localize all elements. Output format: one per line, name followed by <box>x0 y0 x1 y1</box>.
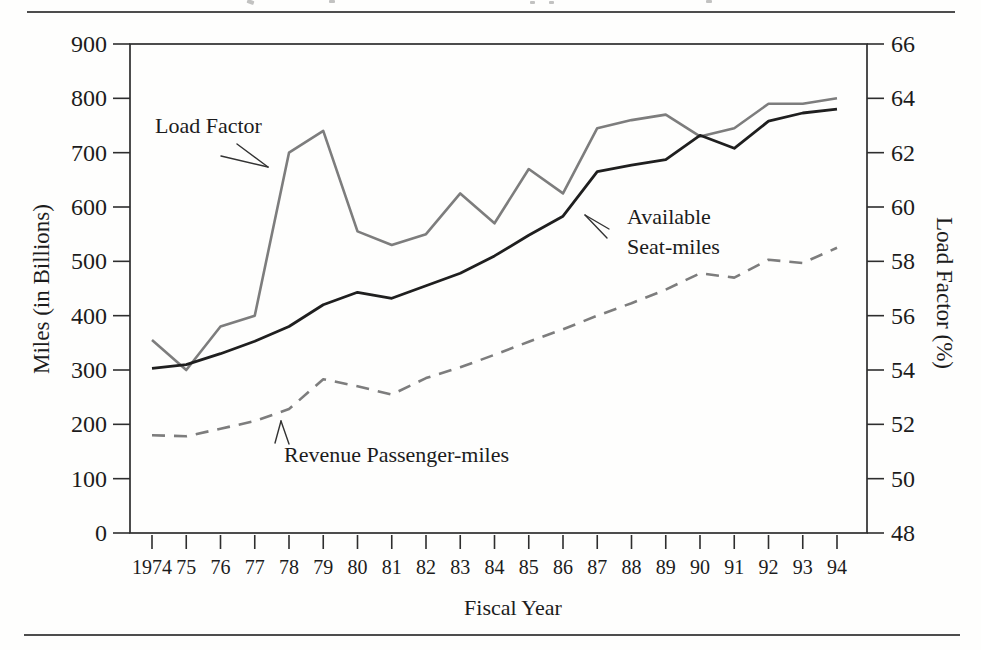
available-seat-miles-line <box>152 109 837 368</box>
x-tick-label: 88 <box>622 556 642 578</box>
y-left-tick-label: 700 <box>71 140 107 166</box>
y-left-tick-label: 100 <box>71 466 107 492</box>
y-right-tick-label: 54 <box>891 357 915 383</box>
y-right-tick-label: 50 <box>891 466 915 492</box>
revenue-passenger-miles-annotation: Revenue Passenger-miles <box>284 440 509 470</box>
y-right-tick-label: 48 <box>891 520 915 546</box>
load-factor-annotation: Load Factor <box>155 111 262 141</box>
x-tick-label: 77 <box>245 556 265 578</box>
y-axis-left-title: Miles (in Billions) <box>29 204 55 374</box>
x-tick-label: 75 <box>176 556 196 578</box>
x-tick-label: 84 <box>485 556 505 578</box>
x-tick-label: 87 <box>587 556 607 578</box>
available-seat-miles-annotation: Available Seat-miles <box>627 202 720 262</box>
x-tick-label: 83 <box>450 556 470 578</box>
y-left-tick-label: 300 <box>71 357 107 383</box>
x-tick-label: 79 <box>313 556 333 578</box>
y-right-tick-label: 52 <box>891 411 915 437</box>
x-tick-label: 78 <box>279 556 299 578</box>
y-right-tick-label: 64 <box>891 85 915 111</box>
x-tick-label: 1974 <box>132 556 172 578</box>
revenue-passenger-miles-arrow <box>275 421 281 443</box>
x-tick-label: 80 <box>348 556 368 578</box>
x-tick-label: 89 <box>656 556 676 578</box>
x-axis-title: Fiscal Year <box>464 593 562 623</box>
y-left-tick-label: 900 <box>71 31 107 57</box>
x-tick-label: 92 <box>759 556 779 578</box>
x-tick-label: 90 <box>690 556 710 578</box>
y-left-tick-label: 0 <box>95 520 107 546</box>
y-left-tick-label: 800 <box>71 85 107 111</box>
y-left-tick-label: 600 <box>71 194 107 220</box>
y-right-tick-label: 58 <box>891 248 915 274</box>
y-right-tick-label: 56 <box>891 303 915 329</box>
y-right-tick-label: 62 <box>891 140 915 166</box>
y-left-tick-label: 500 <box>71 248 107 274</box>
y-left-tick-label: 400 <box>71 303 107 329</box>
x-tick-label: 82 <box>416 556 436 578</box>
x-tick-label: 81 <box>382 556 402 578</box>
x-tick-label: 86 <box>553 556 573 578</box>
x-tick-label: 94 <box>827 556 847 578</box>
y-right-tick-label: 60 <box>891 194 915 220</box>
x-tick-label: 76 <box>211 556 231 578</box>
chart-canvas: 9008007006005004003002001000666462605856… <box>0 0 981 650</box>
y-right-tick-label: 66 <box>891 31 915 57</box>
y-left-tick-label: 200 <box>71 411 107 437</box>
x-tick-label: 91 <box>724 556 744 578</box>
book-page: 9008007006005004003002001000666462605856… <box>0 0 981 650</box>
x-tick-label: 85 <box>519 556 539 578</box>
y-axis-right-title: Load Factor (%) <box>931 217 957 369</box>
x-tick-label: 93 <box>793 556 813 578</box>
bottom-horizontal-rule <box>24 634 960 636</box>
